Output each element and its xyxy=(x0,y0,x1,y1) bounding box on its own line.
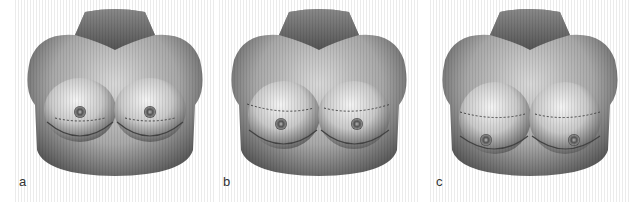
panel-b: b xyxy=(219,0,419,202)
panel-a: a xyxy=(15,0,215,202)
torso-illustration-b xyxy=(219,0,419,202)
torso-illustration-a xyxy=(15,0,215,202)
torso-illustration-c xyxy=(430,0,630,202)
panel-label-a: a xyxy=(19,174,26,189)
panel-c: c xyxy=(430,0,630,202)
panel-label-c: c xyxy=(436,174,443,189)
panel-label-b: b xyxy=(223,174,230,189)
